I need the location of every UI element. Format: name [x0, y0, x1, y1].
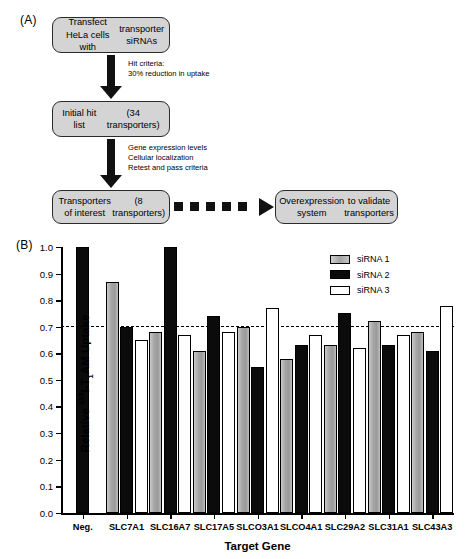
y-tick-mark: [56, 433, 61, 434]
y-tick-label: 0.8: [40, 295, 53, 306]
bar-slc16a7-sirna1: [149, 332, 162, 513]
dash-segment: [222, 202, 231, 211]
flow-arrow-1: [100, 55, 122, 99]
arrow-head: [100, 175, 122, 188]
y-tick-mark: [56, 380, 61, 381]
y-tick-label: 0.0: [40, 507, 53, 518]
bar-slc43a3-sirna3: [440, 306, 453, 513]
y-tick-label: 0.9: [40, 268, 53, 279]
bar-slc16a7-sirna3: [178, 335, 191, 513]
y-tick-label: 0.7: [40, 321, 53, 332]
x-axis-title: Target Gene: [61, 540, 454, 552]
x-tick-label-slc7a1: SLC7A1: [109, 522, 144, 532]
bar-slc29a2-sirna3: [353, 348, 366, 513]
chart-plot-area: 0.00.10.20.30.40.50.60.70.80.91.0 Neg.SL…: [61, 247, 454, 515]
bar-slco4a1-sirna1: [280, 359, 293, 513]
x-tick-mark: [83, 515, 84, 519]
flowchart-box-transporters-of-interest: Transporters of interest(8 transporters): [52, 190, 170, 224]
bar-slc31a1-sirna3: [397, 335, 410, 513]
legend-label: siRNA 2: [357, 270, 390, 280]
x-tick-label-slc17a5: SLC17A5: [194, 522, 234, 532]
x-tick-mark: [258, 515, 259, 519]
bar-slco4a1-sirna3: [309, 335, 322, 513]
panel-b-bar-chart: (B) 0.00.10.20.30.40.50.60.70.80.91.0 Ne…: [0, 237, 473, 559]
legend-swatch-icon: [330, 270, 350, 279]
flow-arrow-2: [100, 139, 122, 188]
bar-slco3a1-sirna1: [237, 327, 250, 513]
x-tick-mark: [432, 515, 433, 519]
flowchart-box-initial-hit-list: Initial hit list(34 transporters): [52, 101, 170, 137]
legend-label: siRNA 1: [357, 254, 390, 264]
y-axis: [61, 247, 63, 515]
bar-slc31a1-sirna1: [368, 321, 381, 512]
panel-a-flowchart: (A) Transfect HeLa cells withtransporter…: [0, 0, 473, 237]
x-tick-mark: [214, 515, 215, 519]
bar-slc7a1-sirna2: [120, 327, 133, 513]
bar-slc17a5-sirna1: [193, 351, 206, 513]
arrow-head: [100, 86, 122, 99]
dash-segment: [238, 202, 247, 211]
x-tick-label-slc16a7: SLC16A7: [150, 522, 190, 532]
x-tick-mark: [127, 515, 128, 519]
y-tick-mark: [56, 353, 61, 354]
bar-slc31a1-sirna2: [382, 345, 395, 512]
x-tick-label-slc29a2: SLC29A2: [325, 522, 365, 532]
x-tick-mark: [301, 515, 302, 519]
dash-segment: [206, 202, 215, 211]
flow-annotation-selection-criteria: Gene expression levelsCellular localizat…: [128, 143, 208, 174]
y-tick-label: 1.0: [40, 242, 53, 253]
arrow-shaft: [107, 55, 115, 87]
y-tick-mark: [56, 513, 61, 514]
legend-item-sirna1[interactable]: siRNA 1: [330, 254, 390, 264]
x-tick-label-slco3a1: SLCO3A1: [236, 522, 278, 532]
bar-slco3a1-sirna3: [266, 308, 279, 513]
y-tick-mark: [56, 486, 61, 487]
x-tick-label-neg: Neg.: [73, 522, 93, 532]
y-tick-label: 0.1: [40, 481, 53, 492]
bar-slc16a7-sirna2: [164, 247, 177, 513]
y-tick-mark: [56, 300, 61, 301]
bar-slc43a3-sirna1: [411, 332, 424, 513]
dash-segment: [174, 202, 183, 211]
flowchart-box-transfect: Transfect HeLa cells withtransporter siR…: [52, 17, 170, 53]
y-tick-label: 0.5: [40, 374, 53, 385]
panel-a-label: (A): [20, 13, 37, 27]
x-tick-mark: [345, 515, 346, 519]
y-tick-label: 0.4: [40, 401, 53, 412]
bar-slc7a1-sirna1: [106, 282, 119, 513]
legend-item-sirna2[interactable]: siRNA 2: [330, 270, 390, 280]
y-tick-mark: [56, 247, 61, 248]
bar-slco3a1-sirna2: [251, 367, 264, 513]
bar-slc43a3-sirna2: [426, 351, 439, 513]
flow-annotation-hit-criteria: Hit criteria:30% reduction in uptake: [128, 59, 209, 79]
bar-slc17a5-sirna3: [222, 332, 235, 513]
bar-slco4a1-sirna2: [295, 345, 308, 512]
x-tick-mark: [170, 515, 171, 519]
y-tick-mark: [56, 327, 61, 328]
y-axis-title: Relative 125I-T1AM Uptake: [77, 289, 94, 479]
dash-segment: [190, 202, 199, 211]
arrow-head: [259, 198, 274, 216]
chart-legend: siRNA 1siRNA 2siRNA 3: [330, 254, 390, 301]
x-tick-label-slc43a3: SLC43A3: [412, 522, 452, 532]
x-tick-label-slc31a1: SLC31A1: [368, 522, 408, 532]
flow-arrow-dashed: [174, 198, 274, 216]
y-tick-label: 0.6: [40, 348, 53, 359]
bar-slc7a1-sirna3: [135, 340, 148, 513]
y-tick-mark: [56, 406, 61, 407]
bar-slc29a2-sirna1: [324, 345, 337, 512]
legend-swatch-icon: [330, 255, 350, 264]
legend-item-sirna3[interactable]: siRNA 3: [330, 285, 390, 295]
panel-b-label: (B): [16, 238, 33, 252]
arrow-shaft: [107, 139, 115, 176]
legend-label: siRNA 3: [357, 285, 390, 295]
y-tick-label: 0.2: [40, 454, 53, 465]
y-tick-mark: [56, 460, 61, 461]
y-tick-mark: [56, 274, 61, 275]
y-tick-label: 0.3: [40, 428, 53, 439]
x-tick-mark: [389, 515, 390, 519]
flowchart-box-overexpression-system: Overexpression systemto validate transpo…: [275, 190, 398, 224]
x-tick-label-slco4a1: SLCO4A1: [280, 522, 322, 532]
bar-slc29a2-sirna2: [338, 313, 351, 512]
legend-swatch-icon: [330, 286, 350, 295]
